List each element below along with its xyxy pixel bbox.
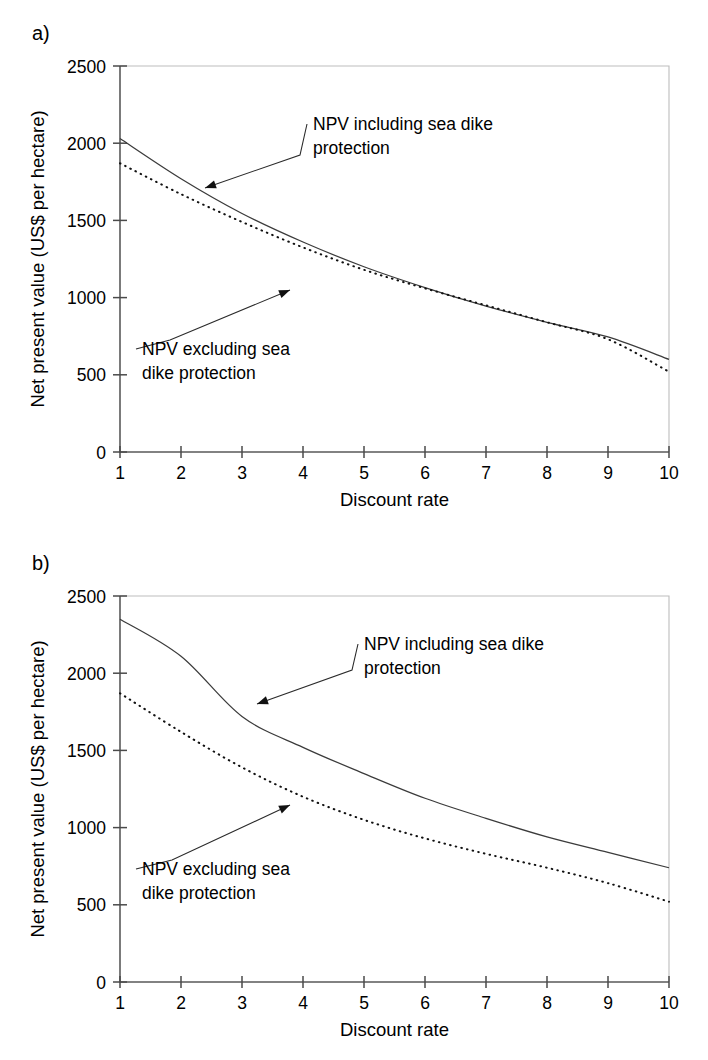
chart-panel-a: a) 0500100015002000250012345678910Discou… — [0, 0, 708, 530]
y-axis-tick-label: 2500 — [67, 57, 106, 77]
x-axis-tick-label: 10 — [659, 993, 679, 1013]
annotation-arrowhead-icon — [278, 286, 291, 298]
x-axis-tick-label: 4 — [298, 463, 308, 483]
x-axis-tick-label: 10 — [659, 463, 679, 483]
x-axis-tick-label: 1 — [115, 463, 125, 483]
y-axis-tick-label: 1500 — [67, 211, 106, 231]
x-axis-tick-label: 5 — [359, 993, 369, 1013]
chart-a-canvas: 0500100015002000250012345678910Discount … — [0, 0, 708, 530]
x-axis-tick-label: 5 — [359, 463, 369, 483]
x-axis-tick-label: 3 — [237, 993, 247, 1013]
annotation-leader-line — [257, 644, 358, 704]
y-axis-tick-label: 2000 — [67, 664, 106, 684]
y-axis-tick-label: 1500 — [67, 741, 106, 761]
x-axis-tick-label: 9 — [603, 993, 613, 1013]
x-axis-title: Discount rate — [340, 489, 449, 510]
x-axis-tick-label: 4 — [298, 993, 308, 1013]
x-axis-tick-label: 2 — [176, 463, 186, 483]
figure-page: a) 0500100015002000250012345678910Discou… — [0, 0, 708, 1060]
annotation-text-line1: NPV excluding sea — [142, 339, 290, 359]
y-axis-tick-label: 1000 — [67, 818, 106, 838]
y-axis-tick-label: 2500 — [67, 587, 106, 607]
y-axis-tick-label: 0 — [96, 443, 106, 463]
x-axis-tick-label: 7 — [481, 993, 491, 1013]
annotation-arrowhead-icon — [256, 696, 269, 708]
annotation-arrowhead-icon — [204, 180, 217, 192]
y-axis-tick-label: 500 — [77, 895, 106, 915]
chart-b-canvas: 0500100015002000250012345678910Discount … — [0, 530, 708, 1060]
annotation-text-line1: NPV including sea dike — [313, 114, 493, 134]
annotation-text-line1: NPV including sea dike — [364, 634, 544, 654]
x-axis-tick-label: 1 — [115, 993, 125, 1013]
x-axis-tick-label: 8 — [542, 463, 552, 483]
annotation-text-line2: protection — [364, 658, 441, 678]
annotation-text-line1: NPV excluding sea — [142, 859, 290, 879]
annotation-text-line2: dike protection — [142, 363, 256, 383]
annotation-text-line2: dike protection — [142, 883, 256, 903]
x-axis-tick-label: 7 — [481, 463, 491, 483]
x-axis-tick-label: 6 — [420, 463, 430, 483]
x-axis-tick-label: 6 — [420, 993, 430, 1013]
y-axis-tick-label: 0 — [96, 973, 106, 993]
y-axis-tick-label: 2000 — [67, 134, 106, 154]
y-axis-title: Net present value (US$ per hectare) — [27, 110, 48, 407]
x-axis-tick-label: 2 — [176, 993, 186, 1013]
x-axis-tick-label: 8 — [542, 993, 552, 1013]
y-axis-title: Net present value (US$ per hectare) — [27, 640, 48, 937]
x-axis-tick-label: 3 — [237, 463, 247, 483]
annotation-leader-line — [205, 124, 307, 188]
y-axis-tick-label: 500 — [77, 365, 106, 385]
annotation-arrowhead-icon — [278, 801, 292, 813]
y-axis-tick-label: 1000 — [67, 288, 106, 308]
annotation-text-line2: protection — [313, 138, 390, 158]
x-axis-tick-label: 9 — [603, 463, 613, 483]
chart-panel-b: b) 0500100015002000250012345678910Discou… — [0, 530, 708, 1060]
x-axis-title: Discount rate — [340, 1019, 449, 1040]
